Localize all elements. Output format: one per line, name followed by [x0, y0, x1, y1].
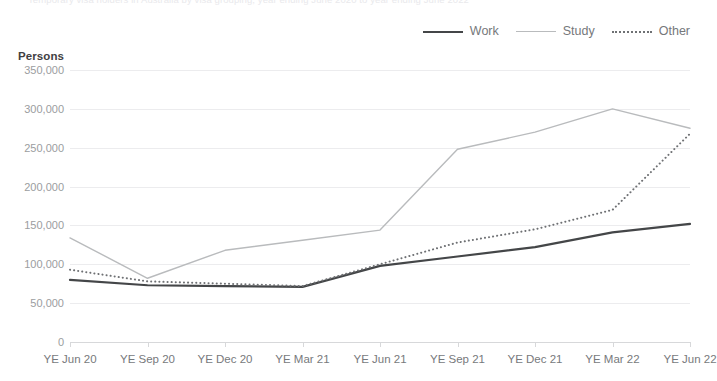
y-axis-tick-label: 50,000 — [2, 297, 64, 309]
clipped-chart-title: Temporary visa holders in Australia by v… — [28, 0, 688, 6]
legend-item-work[interactable]: Work — [423, 24, 499, 38]
x-axis-tick-label: YE Dec 21 — [508, 353, 563, 365]
y-axis-tick-label: 100,000 — [2, 258, 64, 270]
y-axis-tick-label: 300,000 — [2, 103, 64, 115]
x-axis-tick-label: YE Dec 20 — [198, 353, 253, 365]
legend-label-study: Study — [563, 24, 595, 38]
x-axis-tick-mark — [148, 342, 149, 347]
x-axis-tick-mark — [535, 342, 536, 347]
legend-item-study[interactable]: Study — [516, 24, 595, 38]
x-axis-tick-mark — [225, 342, 226, 347]
series-lines-layer — [70, 70, 690, 342]
y-axis-tick-label: 200,000 — [2, 181, 64, 193]
x-axis-tick-label: YE Sep 21 — [430, 353, 485, 365]
plot-area: 050,000100,000150,000200,000250,000300,0… — [70, 70, 690, 342]
x-axis-tick-label: YE Jun 21 — [353, 353, 406, 365]
legend-item-other[interactable]: Other — [612, 24, 690, 38]
x-axis-tick-mark — [303, 342, 304, 347]
x-axis-tick-mark — [458, 342, 459, 347]
x-axis-tick-mark — [690, 342, 691, 347]
x-axis-tick-mark — [70, 342, 71, 347]
y-axis-tick-label: 250,000 — [2, 142, 64, 154]
legend-line-swatch-other — [612, 26, 652, 36]
y-axis-tick-label: 0 — [2, 336, 64, 348]
x-axis-tick-label: YE Jun 20 — [43, 353, 96, 365]
y-axis-tick-label: 150,000 — [2, 219, 64, 231]
legend-line-swatch-work — [423, 26, 463, 36]
legend-label-other: Other — [659, 24, 690, 38]
x-axis-tick-mark — [613, 342, 614, 347]
chart-legend: Work Study Other — [423, 22, 690, 40]
legend-line-swatch-study — [516, 26, 556, 36]
series-line-work — [70, 224, 690, 287]
x-axis-tick-label: YE Sep 20 — [120, 353, 175, 365]
x-axis-tick-mark — [380, 342, 381, 347]
y-axis-tick-label: 350,000 — [2, 64, 64, 76]
series-line-study — [70, 109, 690, 278]
y-axis-unit-label: Persons — [18, 50, 64, 62]
x-axis-tick-label: YE Jun 22 — [663, 353, 716, 365]
series-line-other — [70, 134, 690, 286]
x-axis-tick-label: YE Mar 21 — [275, 353, 329, 365]
x-axis-tick-label: YE Mar 22 — [585, 353, 639, 365]
legend-label-work: Work — [470, 24, 499, 38]
